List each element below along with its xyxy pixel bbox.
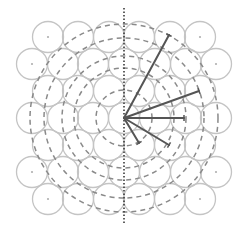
center-dot — [215, 63, 217, 65]
center-dot — [31, 63, 33, 65]
packed-circle — [140, 49, 171, 80]
packed-circle — [78, 49, 109, 80]
packed-circle — [171, 157, 202, 188]
center-dot — [199, 36, 201, 38]
packed-circle — [78, 103, 109, 134]
packed-circle — [63, 184, 94, 215]
packed-circle — [109, 157, 140, 188]
diagram-canvas — [0, 0, 248, 228]
center-dot — [47, 198, 49, 200]
packed-circle — [201, 103, 232, 134]
packing-diagram — [0, 0, 248, 228]
packed-circle — [94, 22, 125, 53]
packed-circle — [63, 22, 94, 53]
center-dot — [199, 198, 201, 200]
packed-circle — [63, 76, 94, 107]
packed-circle — [63, 130, 94, 161]
packed-circle — [155, 22, 186, 53]
packed-circle — [48, 157, 79, 188]
packed-circle — [171, 49, 202, 80]
packed-circle — [124, 184, 155, 215]
center-dot — [215, 171, 217, 173]
center-dot — [31, 171, 33, 173]
packed-circle — [124, 22, 155, 53]
radial-line — [124, 91, 199, 118]
packed-circle — [48, 49, 79, 80]
packed-circle — [94, 184, 125, 215]
packed-circle — [155, 184, 186, 215]
radial-line-end-tick — [198, 88, 200, 94]
center-dot — [47, 36, 49, 38]
packed-circle — [17, 103, 48, 134]
